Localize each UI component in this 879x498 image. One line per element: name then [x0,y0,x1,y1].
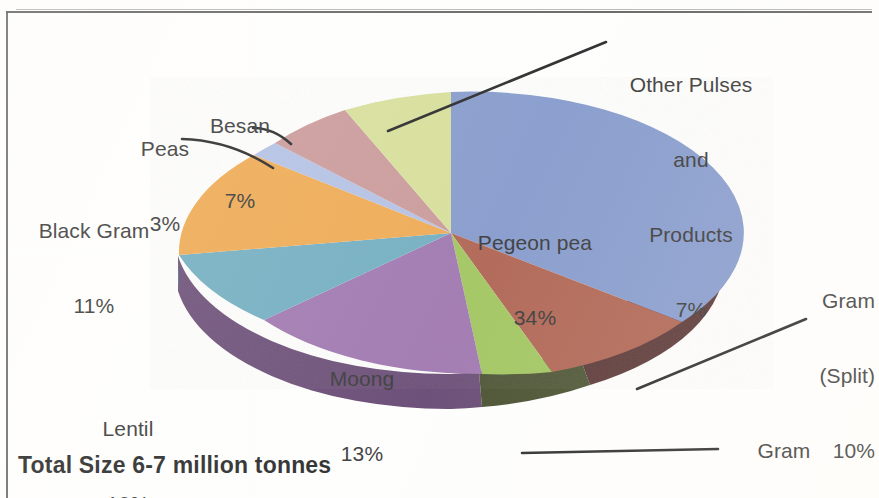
label-pegeon-pea-name: Pegeon pea [450,230,620,255]
label-gram-split-name-1: Gram [760,288,875,313]
label-besan: Besan 7% [182,63,298,263]
label-other-pulses-name-2: and [606,147,776,172]
label-other-pulses-value: 7% [606,297,776,322]
label-moong-name: Moong [302,366,422,391]
label-besan-name: Besan [182,113,298,138]
pie-chart-figure: Peas 3% Besan 7% Black Gram 11% Lentil 1… [0,0,879,498]
label-besan-value: 7% [182,188,298,213]
label-other-pulses-name-1: Other Pulses [606,72,776,97]
label-lentil-name: Lentil [73,416,183,441]
label-pegeon-pea: Pegeon pea 34% [450,180,620,380]
label-black-gram: Black Gram 11% [18,168,170,368]
label-black-gram-name: Black Gram [18,218,170,243]
label-gram-split-name-2: (Split) [760,363,875,388]
label-lentil-value: 10% [73,491,183,498]
label-black-gram-value: 11% [18,293,170,318]
label-pegeon-pea-value: 34% [450,305,620,330]
label-gram-whole-name-1: Gram [714,438,854,463]
label-other-pulses-name-3: Products [606,222,776,247]
label-gram-whole: Gram (Whole) 5% [714,388,854,498]
leader-line-gram-whole [522,449,718,453]
total-size-annotation: Total Size 6-7 million tonnes [18,452,331,479]
label-other-pulses: Other Pulses and Products 7% [606,22,776,372]
